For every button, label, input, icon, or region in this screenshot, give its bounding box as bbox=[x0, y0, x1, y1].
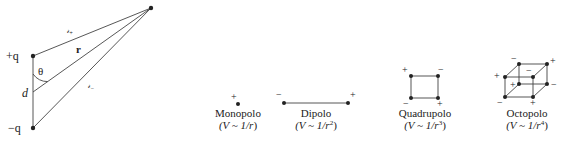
quadrupole-dot bbox=[409, 74, 413, 78]
minus-q-label: −q bbox=[8, 121, 21, 135]
quadrupole-name: Quadrupolo bbox=[399, 107, 452, 119]
theta-label: θ bbox=[38, 65, 43, 77]
monopole-charge-sign: + bbox=[231, 91, 237, 102]
field-point-dot bbox=[149, 6, 153, 10]
quadrupole-dot bbox=[409, 96, 413, 100]
octopole-dot bbox=[517, 62, 521, 66]
octopole-dot bbox=[503, 75, 507, 79]
quadrupole-square bbox=[411, 76, 438, 98]
octopole-sign: − bbox=[526, 65, 532, 76]
octopole-sign: + bbox=[510, 79, 516, 90]
dipole-plus-sign: + bbox=[350, 89, 356, 100]
octopole-figure: − + + − + − − + Octopolo (V ~ 1/r4) bbox=[494, 53, 557, 132]
octopole-sign: − bbox=[497, 97, 503, 108]
dipole-figure: − + Dipolo (V ~ 1/r2) bbox=[276, 89, 356, 132]
octopole-formula: (V ~ 1/r4) bbox=[506, 119, 548, 132]
monopole-figure: + Monopolo (V ~ 1/r) bbox=[215, 91, 261, 132]
r-vector-label: r bbox=[76, 43, 81, 55]
dipole-minus-dot bbox=[282, 101, 286, 105]
dipole-plus-dot bbox=[346, 101, 350, 105]
dipole-name: Dipolo bbox=[301, 107, 332, 119]
r-minus-label: 𝓇− bbox=[87, 81, 94, 91]
octopole-dot bbox=[545, 62, 549, 66]
quadrupole-sign: + bbox=[402, 64, 408, 75]
octopole-name: Octopolo bbox=[507, 107, 548, 119]
octopole-sign: + bbox=[494, 70, 500, 81]
dipole-minus-sign: − bbox=[276, 89, 282, 100]
multipole-diagram: +q −q d θ r 𝓇+ 𝓇− + Monopolo (V ~ 1/r) −… bbox=[0, 0, 571, 145]
quadrupole-figure: + − − + Quadrupolo (V ~ 1/r3) bbox=[399, 64, 452, 132]
monopole-formula: (V ~ 1/r) bbox=[219, 119, 257, 132]
dipole-geometry-figure bbox=[33, 8, 151, 128]
r-plus-line bbox=[33, 8, 151, 56]
octopole-sign: − bbox=[511, 53, 517, 64]
octopole-sign: + bbox=[550, 55, 556, 66]
plus-q-label: +q bbox=[6, 49, 19, 63]
minus-charge-dot bbox=[31, 126, 35, 130]
octopole-sign: − bbox=[551, 79, 557, 90]
r-vector-line bbox=[33, 8, 151, 92]
octopole-dot bbox=[545, 82, 549, 86]
separation-label: d bbox=[22, 86, 29, 100]
r-minus-line bbox=[33, 8, 151, 128]
monopole-name: Monopolo bbox=[215, 107, 261, 119]
octopole-dot bbox=[517, 82, 521, 86]
dipole-formula: (V ~ 1/r2) bbox=[295, 119, 337, 132]
plus-charge-dot bbox=[31, 54, 35, 58]
quadrupole-formula: (V ~ 1/r3) bbox=[404, 119, 446, 132]
octopole-dot bbox=[503, 95, 507, 99]
r-plus-label: 𝓇+ bbox=[66, 26, 73, 36]
quadrupole-sign: − bbox=[438, 64, 444, 75]
monopole-charge-dot bbox=[236, 102, 240, 106]
